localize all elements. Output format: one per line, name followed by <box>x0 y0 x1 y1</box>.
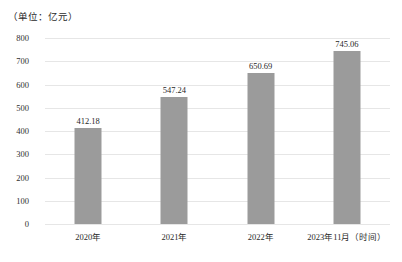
y-axis-tick-label: 100 <box>0 196 29 206</box>
x-axis-tick-label: 2020年 <box>75 230 101 242</box>
y-axis-tick-label: 600 <box>0 80 29 90</box>
bar[interactable] <box>247 73 274 224</box>
bar-value-label: 547.24 <box>163 85 186 95</box>
bar-value-label: 745.06 <box>335 39 358 49</box>
y-axis-tick-label: 800 <box>0 33 29 43</box>
x-axis-tick-label: 2022年 <box>248 230 274 242</box>
y-axis-tick-label: 500 <box>0 103 29 113</box>
y-axis-tick-label: 400 <box>0 126 29 136</box>
bar-value-label: 650.69 <box>249 61 272 71</box>
x-axis-tick-label: 2021年 <box>161 230 187 242</box>
bar[interactable] <box>333 51 360 224</box>
bar-value-label: 412.18 <box>76 116 99 126</box>
y-axis-tick-label: 300 <box>0 149 29 159</box>
bar-group: 745.06 <box>304 38 390 224</box>
bar[interactable] <box>161 97 188 224</box>
bar-chart-figure: （单位：亿元） 8007006005004003002001000 412.18… <box>0 0 402 262</box>
bar-group: 547.24 <box>131 38 217 224</box>
bars-layer: 412.18547.24650.69745.06 <box>45 38 390 224</box>
unit-caption: （单位：亿元） <box>8 9 78 23</box>
x-axis-tick-labels: 2020年2021年2022年2023年11月（时间） <box>45 230 390 250</box>
y-axis-tick-label: 700 <box>0 56 29 66</box>
bar-group: 412.18 <box>45 38 131 224</box>
bar[interactable] <box>75 128 102 224</box>
y-axis-tick-label: 200 <box>0 173 29 183</box>
y-axis-tick-label: 0 <box>0 219 29 229</box>
plot-area: 8007006005004003002001000 412.18547.2465… <box>45 38 390 224</box>
bar-group: 650.69 <box>218 38 304 224</box>
x-axis-tick-label: 2023年11月（时间） <box>307 230 386 242</box>
gridline <box>45 224 390 225</box>
